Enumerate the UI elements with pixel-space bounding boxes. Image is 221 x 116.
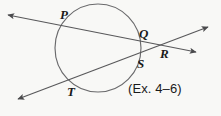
point-label-t: T: [67, 85, 75, 98]
point-label-p: P: [60, 8, 68, 21]
point-label-s: S: [137, 57, 144, 70]
point-label-q: Q: [139, 27, 148, 40]
geometry-canvas: [0, 0, 221, 116]
point-label-r: R: [160, 47, 169, 60]
geometry-figure: P Q R S T (Ex. 4–6): [0, 0, 221, 116]
exercise-caption: (Ex. 4–6): [128, 82, 182, 95]
